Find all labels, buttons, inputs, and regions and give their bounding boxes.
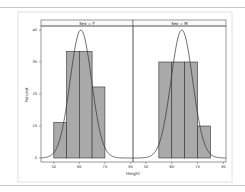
panel-label: Sex = F <box>79 21 95 26</box>
histogram-bar <box>54 122 67 158</box>
y-axis-label: Percent <box>24 87 29 102</box>
histogram-bar <box>159 62 172 158</box>
x-tick-label: 50 <box>51 165 56 169</box>
x-tick-label: 60 <box>169 165 174 169</box>
y-tick-label: 40 <box>32 28 37 32</box>
y-tick-label: 30 <box>32 60 37 64</box>
x-tick-label: 80 <box>221 165 226 169</box>
panel-label: Sex = M <box>171 21 188 26</box>
y-tick-label: 0 <box>35 156 38 160</box>
x-tick-label: 60 <box>77 165 82 169</box>
y-tick-label: 10 <box>32 124 37 128</box>
y-tick-label: 20 <box>32 92 37 96</box>
histogram-chart: Sex = F50607080Sex = M50607080010203040P… <box>0 0 245 192</box>
x-tick-label: 80 <box>128 165 133 169</box>
x-tick-label: 50 <box>144 165 149 169</box>
histogram-bar <box>185 62 198 158</box>
histogram-bar <box>172 62 185 158</box>
x-axis-label: Height <box>126 171 140 176</box>
x-tick-label: 70 <box>103 165 108 169</box>
histogram-bar <box>79 51 92 158</box>
x-tick-label: 70 <box>195 165 200 169</box>
histogram-bar <box>67 51 80 158</box>
